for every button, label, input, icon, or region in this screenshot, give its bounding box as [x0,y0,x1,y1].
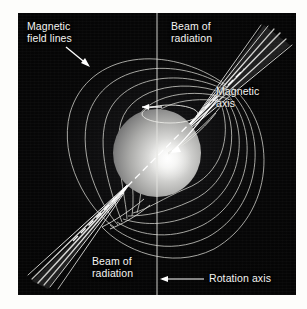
diagram-panel: Magnetic field lines Beam of radiation M… [18,13,296,295]
pulsar-diagram [18,13,296,295]
pointer-rotation-axis [160,276,204,282]
figure-stage: Magnetic field lines Beam of radiation M… [0,0,307,309]
pointer-magnetic-field-lines [66,47,90,67]
beam-of-radiation-north [178,25,292,139]
